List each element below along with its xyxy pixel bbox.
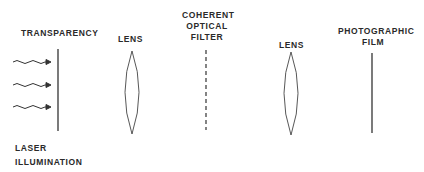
lens-1-label: LENS — [118, 34, 143, 45]
photographic-film-label: PHOTOGRAPHIC FILM — [338, 26, 408, 48]
lens-2-label-text: LENS — [279, 40, 304, 50]
laser-wave-arrow-3 — [13, 105, 51, 110]
laser-wave-arrow-2 — [13, 83, 51, 88]
lens-2-label: LENS — [279, 40, 304, 51]
film-label-line-2: FILM — [338, 37, 408, 48]
coherent-optical-filter-label: COHERENT OPTICAL FILTER — [182, 10, 232, 43]
transparency-label-text: TRANSPARENCY — [21, 28, 98, 38]
transparency-label: TRANSPARENCY — [21, 28, 98, 39]
filter-label-line-3: FILTER — [182, 32, 232, 43]
lens-1-label-text: LENS — [118, 34, 143, 44]
lens-2-shape — [284, 52, 298, 135]
laser-illumination-label: LASER ILLUMINATION — [15, 143, 82, 168]
laser-label-line-1: LASER — [15, 143, 82, 154]
lens-1-shape — [125, 51, 139, 134]
laser-label-line-2: ILLUMINATION — [15, 157, 82, 168]
film-label-line-1: PHOTOGRAPHIC — [338, 26, 408, 37]
filter-label-line-2: OPTICAL — [182, 21, 232, 32]
laser-wave-arrow-1 — [13, 60, 51, 65]
filter-label-line-1: COHERENT — [182, 10, 232, 21]
